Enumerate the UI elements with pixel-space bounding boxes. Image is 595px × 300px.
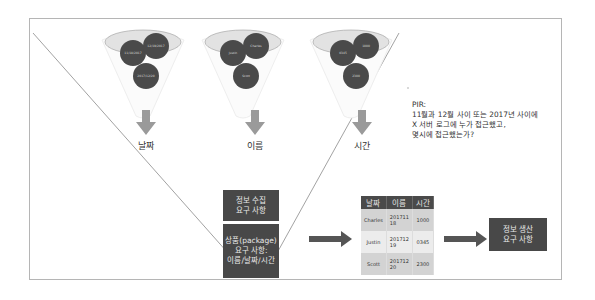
box-line: 정보 수집 [236,196,266,206]
label-name: 이름 [235,139,275,152]
collection-requirements-box: 정보 수집 요구 사항 [223,190,279,221]
cell-name: Justin [361,231,386,253]
right-arrow-icon [309,231,353,247]
down-arrow-icon [351,110,373,136]
package-requirements-box: 상품(package) 요구 사항: 이름/날짜/시간 [223,224,279,278]
pir-line: X 서버 로그에 누가 접근했고, [412,120,538,130]
cell-date: 20171220 [386,253,412,275]
box-line: 요구 사항 [503,235,533,245]
down-arrow-icon [135,110,157,136]
cell-time: 1000 [412,209,433,231]
circle-time-3: 2300 [343,63,369,89]
table-header: 이름 [386,196,412,209]
box-line: 이름/날짜/시간 [225,256,277,266]
production-requirements-box: 정보 생산 요구 사항 [489,218,547,251]
table-header: 날짜 [361,196,386,209]
label-date: 날짜 [126,139,166,152]
label-time: 시간 [342,139,382,152]
circle-date-2: 12/19/2017 [143,33,169,59]
box-line: 상품(package) [225,236,277,246]
pir-title: PIR: [412,100,538,110]
circle-date-3: 2017/12/20 [133,63,159,89]
funnel-time: 0345 1000 2300 [308,28,394,120]
cell-time: 2300 [412,253,433,275]
date-part: 20 [390,264,396,270]
big-funnel-lines [0,0,595,300]
funnel-date: 11/18/2017 12/19/2017 2017/12/20 [100,28,186,120]
table-header: 시간 [412,196,433,209]
cell-time: 0345 [412,231,433,253]
table-row: Charles 20171118 1000 [361,209,433,231]
table-row: Justin 20171219 0345 [361,231,433,253]
table-row: Scott 20171220 2300 [361,253,433,275]
pir-text: PIR: 11월과 12월 사이 또는 2017년 사이에 X 서버 로그에 누… [412,100,538,140]
down-arrow-icon [244,110,266,136]
cell-date: 20171118 [386,209,412,231]
circle-name-2: Charles [243,33,269,59]
cell-name: Charles [361,209,386,231]
data-table: 날짜 이름 시간 Charles 20171118 1000 Justin 20… [361,196,434,275]
circle-time-2: 1000 [353,33,379,59]
pir-line: 11월과 12월 사이 또는 2017년 사이에 [412,110,538,120]
right-arrow-icon [444,231,488,247]
stray-dot [407,87,409,89]
box-line: 요구 사항: [225,246,277,256]
circle-name-3: Scott [233,63,259,89]
date-part: 19 [390,242,396,248]
pir-line: 몇시에 접근했는가? [412,130,538,140]
box-line: 정보 생산 [503,225,533,235]
cell-name: Scott [361,253,386,275]
cell-date: 20171219 [386,231,412,253]
funnel-name: Justin Charles Scott [200,28,286,120]
date-part: 18 [390,220,396,226]
box-line: 요구 사항 [236,206,266,216]
